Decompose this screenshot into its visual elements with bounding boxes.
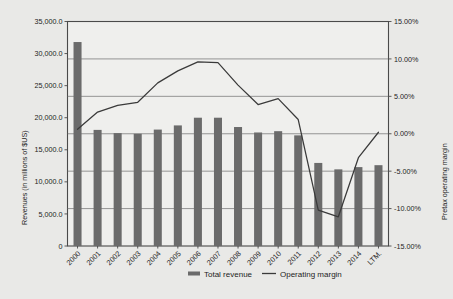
y-tick-label: 35,000.0 [35, 17, 63, 26]
bar [174, 125, 182, 246]
y2-tick-label: -15.00% [394, 242, 421, 251]
plot-area: 05,000.010,000.015,000.020,000.025,000.0… [35, 17, 422, 267]
bar [294, 135, 302, 246]
y-tick-label: 10,000.0 [35, 177, 63, 186]
y2-tick-label: -5.00% [394, 167, 417, 176]
y2-tick-label: 10.00% [394, 55, 419, 64]
y-tick-label: 5,000.0 [39, 210, 63, 219]
legend-label-operating-margin: Operating margin [280, 270, 342, 279]
y-tick-label: 15,000.0 [35, 145, 63, 154]
bar [194, 118, 202, 246]
bar [234, 127, 242, 246]
y2-tick-label: 0.00% [394, 129, 415, 138]
bar [134, 134, 142, 246]
y-tick-label: 30,000.0 [35, 49, 63, 58]
bar [314, 163, 322, 246]
legend-marker-total-revenue [188, 272, 200, 276]
bar [354, 167, 362, 246]
bar [74, 42, 82, 246]
bar [214, 118, 222, 246]
bar [274, 131, 282, 246]
y-tick-label: 25,000.0 [35, 81, 63, 90]
bar [254, 132, 262, 246]
y-axis-title: Revenues (in millions of $US) [20, 130, 29, 225]
y-tick-label: 0 [59, 242, 63, 251]
bar [114, 133, 122, 246]
bar [94, 130, 102, 246]
y2-tick-label: 5.00% [394, 92, 415, 101]
bar [154, 130, 162, 246]
y-tick-label: 20,000.0 [35, 113, 63, 122]
legend-label-total-revenue: Total revenue [204, 270, 253, 279]
revenue-operating-margin-chart: Revenues (in millions of $US) Pretax ope… [0, 0, 453, 299]
y2-tick-label: -10.00% [394, 204, 421, 213]
y2-tick-label: 15.00% [394, 17, 419, 26]
bar [374, 165, 382, 246]
y2-axis-title: Pretax operating margin [440, 143, 449, 220]
